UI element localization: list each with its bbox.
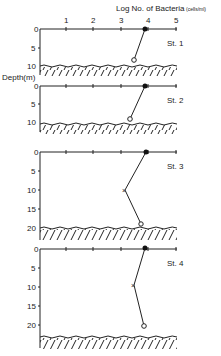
svg-text:15: 15 <box>27 205 36 214</box>
svg-text:5: 5 <box>31 167 36 176</box>
svg-text:15: 15 <box>27 302 36 311</box>
svg-text:20: 20 <box>27 321 36 330</box>
svg-text:0: 0 <box>34 82 39 91</box>
svg-text:10: 10 <box>27 283 36 292</box>
svg-text:1: 1 <box>64 16 69 25</box>
svg-text:×: × <box>122 187 126 194</box>
panel-st1: 5 10 Depth(m) St. 1 <box>2 27 184 83</box>
svg-text:3: 3 <box>119 16 124 25</box>
svg-text:5: 5 <box>31 44 36 53</box>
panel-st3: 0 5 10 15 20 St. 3 × <box>27 148 184 240</box>
station-label: St. 3 <box>167 162 184 171</box>
svg-text:×: × <box>131 282 135 289</box>
panel-st4: 0 5 10 15 20 St. 4 × <box>27 245 184 349</box>
chart-title: Log No. of Bacteria <box>116 4 185 13</box>
surface-point <box>143 27 148 32</box>
svg-text:5: 5 <box>31 264 36 273</box>
station-label: St. 4 <box>167 259 184 268</box>
bacteria-depth-chart: Log No. of Bacteria (cells/ml) 0 1 2 3 4… <box>0 0 221 356</box>
x-axis-labels: 0 1 2 3 4 5 <box>34 16 179 34</box>
svg-text:10: 10 <box>27 118 36 127</box>
svg-text:0: 0 <box>34 245 39 254</box>
station-label: St. 1 <box>167 39 184 48</box>
svg-text:20: 20 <box>27 224 36 233</box>
station-label: St. 2 <box>167 96 184 105</box>
chart-unit: (cells/ml) <box>186 6 206 12</box>
svg-text:0: 0 <box>34 148 39 157</box>
panel-st2: 0 5 10 St. 2 <box>27 82 184 134</box>
svg-text:10: 10 <box>27 62 36 71</box>
svg-text:5: 5 <box>174 16 179 25</box>
bottom-point <box>132 58 137 63</box>
svg-text:4: 4 <box>146 16 151 25</box>
svg-text:0: 0 <box>34 25 39 34</box>
svg-text:2: 2 <box>91 16 96 25</box>
svg-text:10: 10 <box>27 186 36 195</box>
svg-text:5: 5 <box>31 100 36 109</box>
depth-axis-label: Depth(m) <box>2 73 36 82</box>
